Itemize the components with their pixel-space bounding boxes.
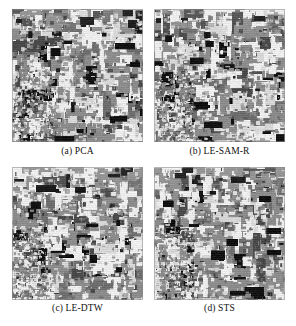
classification-map-panel-d [154, 167, 285, 300]
map-canvas-d [154, 167, 285, 300]
caption-d: (d) STS [154, 303, 285, 314]
map-image-a [12, 9, 143, 142]
figure-root: (a) PCA (b) LE-SAM-R (c) LE-DTW (d) STS [0, 0, 296, 326]
caption-c: (c) LE-DTW [12, 303, 143, 314]
map-canvas-a [12, 9, 143, 142]
classification-map-panel-c [12, 167, 143, 300]
map-canvas-c [12, 167, 143, 300]
map-image-d [154, 167, 285, 300]
caption-b: (b) LE-SAM-R [154, 146, 285, 157]
map-image-c [12, 167, 143, 300]
caption-a: (a) PCA [12, 146, 143, 157]
map-image-b [154, 9, 285, 142]
classification-map-panel-b [154, 9, 285, 142]
map-canvas-b [154, 9, 285, 142]
classification-map-panel-a [12, 9, 143, 142]
